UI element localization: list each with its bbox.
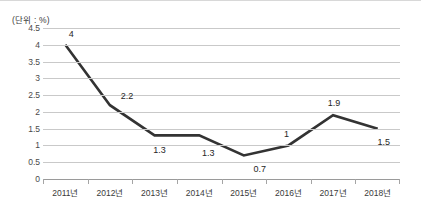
y-tick-label: 4.5	[0, 23, 40, 33]
x-tick-label: 2014년	[186, 186, 213, 198]
grid-line	[43, 162, 400, 163]
grid-line	[43, 112, 400, 113]
y-tick-label: 0.5	[0, 157, 40, 167]
data-point-label: 0.7	[254, 164, 267, 174]
x-axis-ticks	[43, 179, 400, 184]
x-tick-label: 2016년	[275, 186, 302, 198]
chart-screenshot: (단위 : %) 00.511.522.533.544.5 42.21.31.3…	[0, 0, 421, 212]
data-point-label: 4	[69, 29, 74, 39]
plot-area: 42.21.31.30.711.91.5	[43, 28, 400, 179]
data-point-label: 1.3	[153, 145, 166, 155]
series-line	[43, 28, 400, 179]
y-tick-label: 2	[0, 107, 40, 117]
x-tick-label: 2018년	[364, 186, 391, 198]
y-tick-label: 1.5	[0, 124, 40, 134]
grid-line	[43, 45, 400, 46]
x-tick-label: 2013년	[141, 186, 168, 198]
x-axis-tick	[177, 179, 178, 184]
x-axis-tick	[132, 179, 133, 184]
x-axis-tick	[222, 179, 223, 184]
x-axis-tick	[311, 179, 312, 184]
y-tick-label: 1	[0, 140, 40, 150]
x-axis-tick	[399, 179, 400, 184]
data-point-label: 2.2	[121, 91, 134, 101]
data-point-label: 1.3	[202, 148, 215, 158]
y-tick-label: 3.5	[0, 57, 40, 67]
x-axis-tick	[266, 179, 267, 184]
x-axis-tick	[88, 179, 89, 184]
y-tick-label: 0	[0, 174, 40, 184]
y-tick-label: 4	[0, 40, 40, 50]
data-point-label: 1.9	[328, 98, 341, 108]
y-tick-label: 3	[0, 73, 40, 83]
y-tick-label: 2.5	[0, 90, 40, 100]
grid-line	[43, 95, 400, 96]
x-axis-tick	[43, 179, 44, 184]
grid-line	[43, 145, 400, 146]
y-axis: 00.511.522.533.544.5	[0, 28, 40, 179]
grid-line	[43, 78, 400, 79]
x-tick-label: 2015년	[230, 186, 257, 198]
x-axis-labels: 2011년2012년2013년2014년2015년2016년2017년2018년	[43, 186, 400, 202]
x-tick-label: 2011년	[52, 186, 78, 198]
x-tick-label: 2017년	[320, 186, 347, 198]
grid-line	[43, 62, 400, 63]
grid-line	[43, 28, 400, 29]
x-axis-tick	[355, 179, 356, 184]
data-point-label: 1	[284, 129, 289, 139]
grid-line	[43, 129, 400, 130]
data-point-label: 1.5	[377, 137, 390, 147]
x-tick-label: 2012년	[96, 186, 123, 198]
